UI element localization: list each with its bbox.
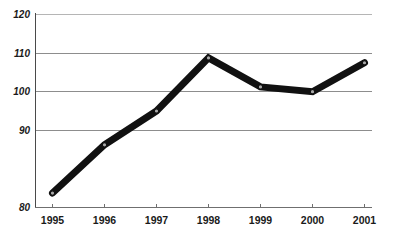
- line-chart: 120 110 100 90 80 1995 1996 1997 1998 19…: [0, 0, 398, 241]
- x-tick-label-2001: 2001: [353, 214, 377, 226]
- x-tick-label-2000: 2000: [301, 214, 325, 226]
- x-tick-label-1995: 1995: [41, 214, 65, 226]
- x-tick-label-1996: 1996: [93, 214, 117, 226]
- x-tick-label-1999: 1999: [249, 214, 273, 226]
- y-tick-label-120: 120: [13, 9, 30, 20]
- data-point-marker: [310, 90, 314, 94]
- data-point-marker: [50, 191, 54, 195]
- y-tick-label-100: 100: [13, 86, 30, 97]
- chart-container: 120 110 100 90 80 1995 1996 1997 1998 19…: [0, 0, 398, 241]
- y-tick-label-110: 110: [14, 48, 30, 59]
- data-point-marker: [362, 61, 366, 65]
- y-tick-label-80: 80: [19, 202, 31, 213]
- data-point-marker: [154, 109, 158, 113]
- data-point-marker: [206, 56, 210, 60]
- data-point-marker: [102, 143, 106, 147]
- data-point-marker: [258, 85, 262, 89]
- x-tick-label-1998: 1998: [197, 214, 221, 226]
- x-tick-label-1997: 1997: [145, 214, 169, 226]
- chart-background: [0, 0, 398, 241]
- y-tick-label-90: 90: [19, 125, 31, 136]
